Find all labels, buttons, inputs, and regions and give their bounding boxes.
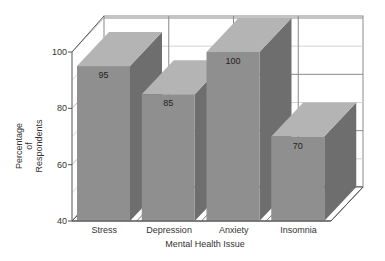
y-tick-label: 60 (57, 160, 67, 170)
x-category-label: Depression (146, 225, 192, 235)
bar-front (207, 52, 260, 221)
x-axis-title: Mental Health Issue (165, 239, 245, 249)
bar-front (77, 66, 130, 221)
y-tick-label: 80 (57, 103, 67, 113)
bar-value-label: 70 (293, 141, 303, 151)
bar-value-label: 95 (98, 70, 108, 80)
bar-value-label: 85 (163, 98, 173, 108)
y-axis-title: PercentageofRespondents (14, 119, 44, 173)
x-category-label: Stress (92, 225, 118, 235)
x-category-label: Insomnia (280, 225, 317, 235)
x-category-label: Anxiety (219, 225, 249, 235)
y-tick-label: 40 (57, 216, 67, 226)
y-tick-label: 100 (52, 47, 67, 57)
bar-front (142, 94, 195, 221)
bars: 958510070 (77, 18, 356, 221)
bar-value-label: 100 (225, 56, 240, 66)
bar-chart-3d: 958510070 406080100StressDepressionAnxie… (0, 0, 385, 261)
